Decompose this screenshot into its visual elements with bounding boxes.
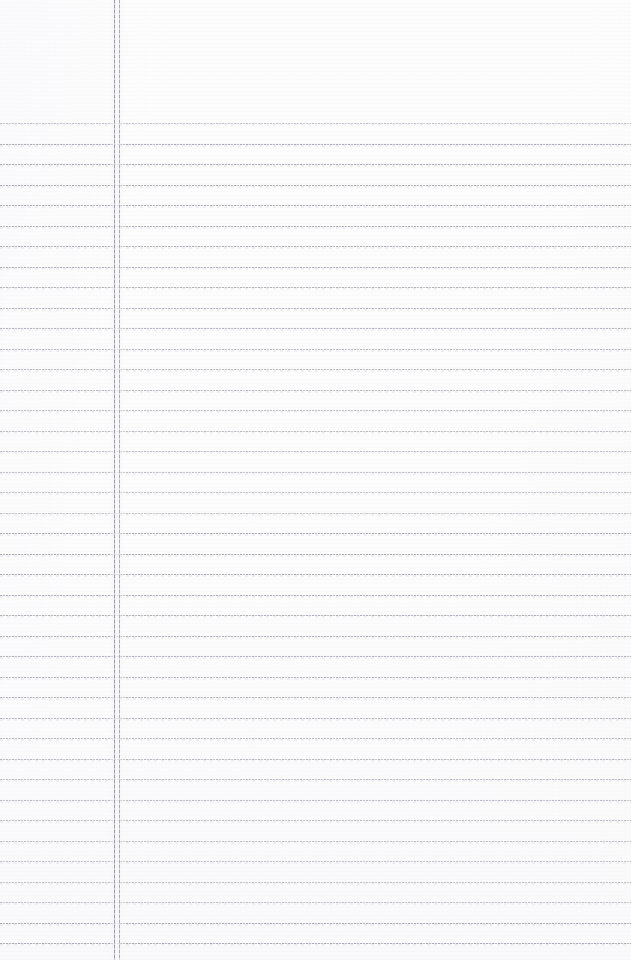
margin-rule-secondary	[119, 0, 120, 960]
lined-paper-page	[0, 0, 631, 960]
writing-area[interactable]	[0, 0, 631, 960]
margin-rule-primary	[114, 0, 115, 960]
